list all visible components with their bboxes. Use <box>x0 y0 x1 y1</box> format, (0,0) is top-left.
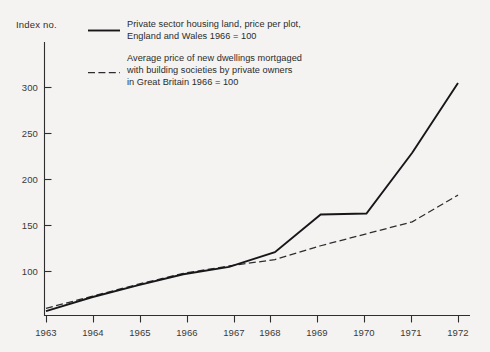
y-tick-label-250: 250 <box>22 128 38 139</box>
x-tick-label-1969: 1969 <box>306 327 328 338</box>
series-line-private-housing-land <box>46 83 458 311</box>
y-axis-ticks <box>45 88 52 272</box>
y-axis-title: Index no. <box>16 19 57 30</box>
chart-canvas: Index no. 300 250 200 150 100 <box>0 0 490 352</box>
index-line-chart: Index no. 300 250 200 150 100 <box>0 0 490 352</box>
x-tick-label-1963: 1963 <box>35 327 57 338</box>
axis-lines <box>45 42 471 316</box>
x-tick-label-1968: 1968 <box>259 327 281 338</box>
legend-entry-1-line-1: with building societies by private owner… <box>126 65 293 75</box>
legend-entry-1-line-2: in Great Britain 1966 = 100 <box>127 77 238 87</box>
y-tick-label-200: 200 <box>22 174 38 185</box>
x-tick-label-1970: 1970 <box>353 327 375 338</box>
x-axis-ticks <box>47 316 459 323</box>
y-tick-label-300: 300 <box>22 82 38 93</box>
x-tick-label-1971: 1971 <box>400 327 422 338</box>
x-tick-label-1966: 1966 <box>176 327 198 338</box>
y-tick-label-150: 150 <box>22 220 38 231</box>
x-tick-label-1965: 1965 <box>129 327 151 338</box>
legend-entry-0-line-0: Private sector housing land, price per p… <box>127 19 301 29</box>
y-axis-tick-labels: 300 250 200 150 100 <box>22 82 38 277</box>
x-tick-label-1964: 1964 <box>82 327 104 338</box>
x-axis-tick-labels: 1963 1964 1965 1966 1967 1968 1969 1970 … <box>35 327 469 338</box>
chart-legend: Private sector housing land, price per p… <box>88 19 302 87</box>
series-line-average-new-dwellings <box>46 195 458 308</box>
y-tick-label-100: 100 <box>22 266 38 277</box>
legend-entry-0-line-1: England and Wales 1966 = 100 <box>127 31 257 41</box>
x-tick-label-1967: 1967 <box>223 327 245 338</box>
x-tick-label-1972: 1972 <box>447 327 469 338</box>
legend-entry-1-line-0: Average price of new dwellings mortgaged <box>127 53 302 63</box>
